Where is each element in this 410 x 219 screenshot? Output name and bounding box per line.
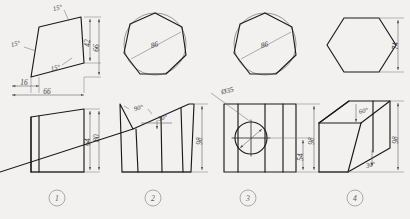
fig3-front-dim-54: 54 [296,153,305,161]
fig1-dim-42: 42 [83,39,92,47]
fig2-front-dim-98: 98 [195,137,204,145]
drawing-sheet: 42 66 16 66 15° 15° 15° 64 80 [0,0,410,219]
figure-number-2: 2 [145,190,161,206]
figure-1-front-view: 64 80 [31,109,101,172]
fig3-dim-d35: Ø35 [219,85,235,97]
figure-1-top-view: 42 66 16 66 15° 15° 15° [10,3,101,96]
fig3-dim-86: 86 [260,39,270,50]
fig1-dim-66-right: 66 [92,44,101,52]
fig1-angle-mid: 15° [50,63,61,72]
figure-4-front-view: 60° 30° 98 [319,101,404,172]
fig2-angle-90: 90° [133,103,144,112]
fig2-dim-86: 86 [150,39,160,50]
figure-3-front-view: Ø35 54 98 [211,85,320,172]
fig4-angle-60: 60° [358,106,369,115]
figure-number-3-label: 3 [245,194,250,203]
fig1-angle-top: 15° [52,3,63,12]
figure-number-2-label: 2 [151,194,155,203]
fig1-angle-left: 15° [10,39,21,48]
fig1-dim-66-bottom: 66 [43,87,51,96]
figure-number-1-label: 1 [55,194,59,203]
figure-3-top-view: 86 [234,13,296,75]
figure-number-3: 3 [240,190,256,206]
fig4-angle-30: 30° [364,160,376,169]
fig2-angle-30: 30° [156,113,168,122]
figure-2-top-view: 86 [124,13,186,75]
fig4-dim-74: 74 [391,42,400,50]
figure-number-4-label: 4 [353,194,357,203]
figure-number-1: 1 [49,190,65,206]
fig4-front-dim-98: 98 [391,136,400,144]
fig3-front-dim-98: 98 [307,137,316,145]
figure-number-4: 4 [347,190,363,206]
figure-4-top-view: 74 [327,18,404,72]
fig1-dim-16: 16 [20,78,28,87]
